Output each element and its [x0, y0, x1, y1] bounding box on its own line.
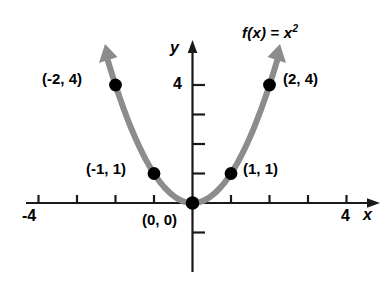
data-point-0-0: [186, 196, 200, 210]
data-point-1-1: [225, 167, 238, 180]
function-label-exponent: 2: [292, 23, 298, 34]
graph-figure: f(x) = x2 y x -4 4 4 (-2, 4) (-1, 1) (0,…: [0, 0, 384, 285]
x-tick-label-4: 4: [341, 208, 350, 224]
data-point--1-1: [148, 167, 161, 180]
y-axis: [188, 40, 205, 272]
function-label-equals: =: [266, 24, 284, 41]
point-label-0-0: (0, 0): [142, 212, 177, 227]
data-point-2-4: [263, 79, 276, 92]
point-label--1-1: (-1, 1): [86, 161, 126, 176]
point-label-1-1: (1, 1): [243, 161, 278, 176]
function-label: f(x) = x2: [242, 24, 298, 40]
point-label-2-4: (2, 4): [283, 71, 318, 86]
x-axis-label: x: [363, 207, 372, 223]
data-point--2-4: [109, 79, 122, 92]
y-tick-label-4: 4: [173, 76, 182, 92]
y-axis-label: y: [170, 40, 179, 56]
function-label-prefix: f(x): [242, 24, 266, 41]
y-axis-arrowhead-icon: [188, 40, 198, 53]
y-axis-ticks: [193, 85, 206, 233]
x-tick-label--4: -4: [22, 208, 36, 224]
coordinate-plane: [0, 0, 384, 285]
point-label--2-4: (-2, 4): [42, 71, 82, 86]
